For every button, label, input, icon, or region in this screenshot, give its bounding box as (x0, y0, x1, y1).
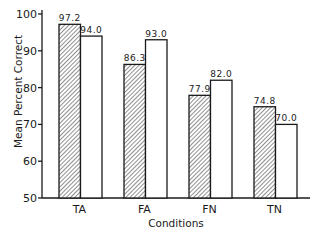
category-label: TN (266, 203, 282, 216)
x-axis-title: Conditions (148, 217, 204, 229)
y-tick-label: 90 (23, 45, 37, 58)
value-label: 74.8 (254, 96, 276, 106)
bar-group-ta (59, 24, 102, 198)
bar-fn-hatched (189, 95, 211, 198)
bars (59, 24, 297, 198)
y-axis-title: Mean Percent Correct (12, 35, 24, 148)
bar-group-fn (189, 80, 232, 198)
value-label: 82.0 (210, 69, 232, 79)
bar-fa-open (146, 40, 168, 198)
category-label: TA (72, 203, 87, 216)
bar-tn-hatched (254, 107, 276, 198)
bar-group-fa (124, 40, 167, 198)
value-label: 94.0 (80, 25, 102, 35)
bar-fa-hatched (124, 64, 146, 198)
y-tick-label: 100 (16, 8, 37, 21)
category-label: FA (138, 203, 151, 216)
y-tick-label: 80 (23, 82, 37, 95)
y-tick-label: 60 (23, 155, 37, 168)
y-tick-label: 70 (23, 118, 37, 131)
y-tick-label: 50 (23, 192, 37, 205)
bar-chart: 5060708090100 97.294.0TA86.393.0FA77.982… (0, 0, 317, 235)
value-label: 86.3 (124, 53, 146, 63)
value-label: 93.0 (145, 29, 167, 39)
bar-fn-open (211, 80, 233, 198)
value-label: 97.2 (59, 13, 81, 23)
bar-ta-hatched (59, 24, 81, 198)
category-label: FN (202, 203, 217, 216)
bar-ta-open (81, 36, 103, 198)
value-label: 77.9 (189, 84, 211, 94)
value-label: 70.0 (275, 113, 297, 123)
bar-tn-open (276, 124, 298, 198)
